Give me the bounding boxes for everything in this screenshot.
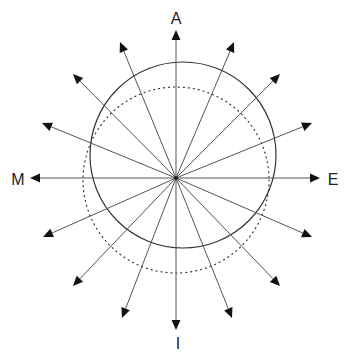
arrow-6	[176, 178, 280, 286]
label-right-e: E	[328, 172, 339, 188]
arrow-14	[73, 74, 176, 178]
arrowhead-icon	[30, 174, 40, 183]
arrow-8	[172, 178, 181, 330]
arrow-2	[176, 74, 280, 178]
arrow-15	[120, 42, 176, 178]
arrow-4	[176, 174, 320, 183]
arrow-10	[73, 178, 176, 286]
label-bottom-i: I	[176, 336, 180, 352]
arrow-13	[42, 123, 176, 178]
arrowhead-icon	[172, 30, 181, 40]
center-point	[174, 176, 178, 180]
arrow-12	[30, 174, 176, 183]
label-top-a: A	[171, 11, 182, 27]
label-left-m: M	[11, 172, 24, 188]
radial-arrow-diagram	[0, 0, 347, 360]
arrow-11	[43, 178, 176, 237]
solid-circle	[90, 62, 276, 248]
arrow-0	[172, 30, 181, 178]
arrowhead-icon	[121, 307, 129, 318]
arrowhead-icon	[310, 174, 320, 183]
arrowhead-icon	[172, 320, 181, 330]
